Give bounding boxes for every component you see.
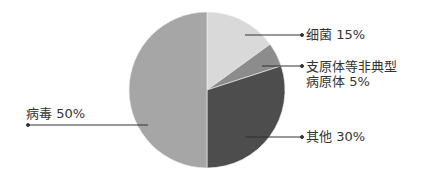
- leader-dot-virus: [27, 124, 30, 127]
- leader-dot-other: [301, 136, 304, 139]
- label-other: 其他 30%: [306, 129, 365, 144]
- label-atypical-line2: 病原体 5%: [306, 74, 370, 89]
- leader-dot-bacteria: [301, 34, 304, 37]
- leader-dot-atypical: [301, 65, 304, 68]
- label-virus: 病毒 50%: [26, 106, 85, 121]
- slice-virus: [129, 12, 207, 168]
- label-bacteria: 细菌 15%: [306, 27, 365, 42]
- label-atypical-line1: 支原体等非典型: [306, 59, 397, 74]
